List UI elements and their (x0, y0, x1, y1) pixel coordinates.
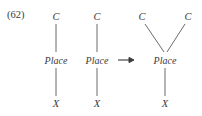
equation-number: (62) (7, 9, 25, 21)
tree-middle-category-node: C (93, 11, 100, 22)
tree-middle-variable-node: X (94, 98, 100, 109)
transformation-arrow-head (129, 57, 134, 62)
tree-middle-place-node: Place (86, 55, 109, 66)
tree-left-variable-node: X (53, 98, 59, 109)
tree-result-edge-left-c-to-place (145, 24, 164, 52)
tree-result-category-node-left: C (138, 11, 145, 22)
tree-result-variable-node: X (162, 98, 168, 109)
syntax-tree-figure: (62) CPlaceXCPlaceXCCPlaceX (0, 0, 202, 116)
tree-result-place-node: Place (154, 55, 177, 66)
tree-left-category-node: C (52, 11, 59, 22)
tree-result-category-node-right: C (184, 11, 191, 22)
tree-left-place-node: Place (45, 55, 68, 66)
tree-result-edge-right-c-to-place (167, 24, 185, 52)
